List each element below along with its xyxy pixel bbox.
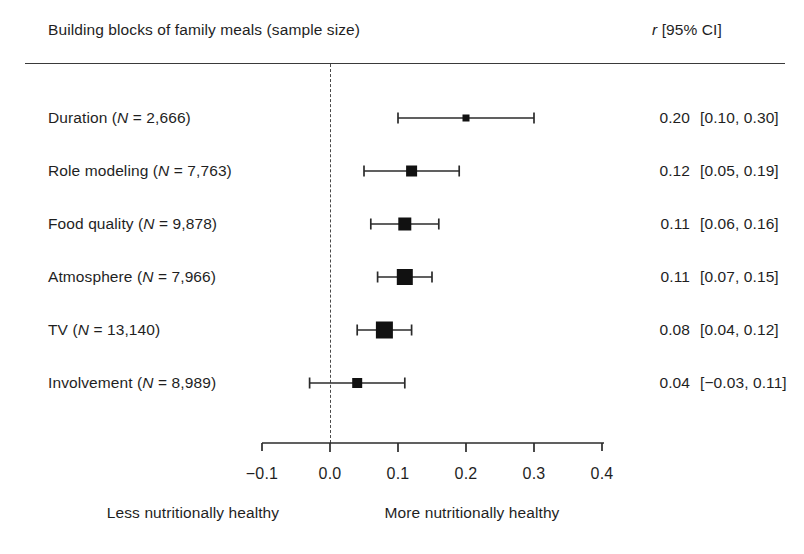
row-label-name: Duration ( — [48, 109, 117, 126]
confidence-interval-value: [0.04, 0.12] — [700, 322, 779, 338]
confidence-interval-value: [0.05, 0.19] — [700, 163, 779, 179]
row-label-duration: Duration (N = 2,666) — [48, 110, 191, 126]
row-label-name: Atmosphere ( — [48, 268, 142, 285]
row-label-name: TV ( — [48, 321, 78, 338]
effect-size-marker — [463, 115, 470, 122]
sample-size-symbol: N — [143, 215, 154, 232]
confidence-interval-value: [0.06, 0.16] — [700, 216, 779, 232]
row-label-role-modeling: Role modeling (N = 7,763) — [48, 163, 232, 179]
forest-row-food-quality — [371, 218, 439, 231]
forest-row-involvement — [310, 378, 405, 389]
estimate-value: 0.20 — [650, 110, 690, 126]
effect-size-marker — [406, 166, 417, 177]
sample-size-symbol: N — [117, 109, 128, 126]
row-label-name: Involvement ( — [48, 374, 142, 391]
effect-size-marker — [397, 269, 413, 285]
axis-tick-label: 0.2 — [455, 466, 478, 482]
axis-tick-label: 0.4 — [591, 466, 614, 482]
row-label-name: Role modeling ( — [48, 162, 158, 179]
forest-row-role-modeling — [364, 166, 459, 177]
forest-row-duration — [398, 113, 534, 124]
row-label-sample-size: = 2,666) — [128, 109, 191, 126]
estimate-value: 0.04 — [650, 375, 690, 391]
row-label-involvement: Involvement (N = 8,989) — [48, 375, 216, 391]
sample-size-symbol: N — [78, 321, 89, 338]
sample-size-symbol: N — [158, 162, 169, 179]
estimate-value: 0.11 — [650, 269, 690, 285]
forest-row-atmosphere — [378, 269, 432, 285]
forest-row-tv — [357, 322, 411, 339]
row-label-sample-size: = 9,878) — [155, 215, 218, 232]
effect-size-marker — [376, 322, 393, 339]
axis-tick-label: 0.0 — [319, 466, 342, 482]
confidence-interval-value: [0.10, 0.30] — [700, 110, 779, 126]
axis-tick-label: 0.1 — [387, 466, 410, 482]
footer-caption-right: More nutritionally healthy — [385, 505, 560, 521]
row-label-food-quality: Food quality (N = 9,878) — [48, 216, 217, 232]
footer-caption-left: Less nutritionally healthy — [107, 505, 279, 521]
confidence-interval-value: [0.07, 0.15] — [700, 269, 779, 285]
estimate-value: 0.12 — [650, 163, 690, 179]
row-label-sample-size: = 7,763) — [169, 162, 232, 179]
row-label-atmosphere: Atmosphere (N = 7,966) — [48, 269, 216, 285]
estimate-value: 0.11 — [650, 216, 690, 232]
row-label-sample-size: = 7,966) — [154, 268, 217, 285]
confidence-interval-value: [−0.03, 0.11] — [700, 375, 787, 391]
row-label-sample-size: = 13,140) — [89, 321, 160, 338]
row-label-sample-size: = 8,989) — [154, 374, 217, 391]
x-axis — [262, 443, 604, 452]
sample-size-symbol: N — [142, 374, 153, 391]
sample-size-symbol: N — [142, 268, 153, 285]
axis-tick-label: 0.3 — [523, 466, 546, 482]
row-label-name: Food quality ( — [48, 215, 143, 232]
axis-tick-label: −0.1 — [246, 466, 278, 482]
effect-size-marker — [398, 218, 411, 231]
estimate-value: 0.08 — [650, 322, 690, 338]
effect-size-marker — [352, 378, 362, 388]
row-label-tv: TV (N = 13,140) — [48, 322, 160, 338]
